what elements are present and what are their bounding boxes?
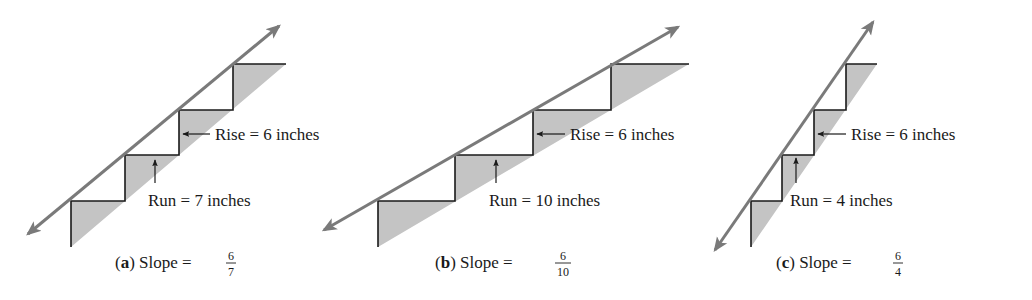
fraction-numerator: 6 [895, 249, 901, 263]
slope-line-arrow [715, 22, 873, 250]
caption-close-paren: ) [450, 253, 460, 272]
caption-prefix: Slope = [139, 253, 192, 272]
run-label: Run = 4 inches [790, 191, 893, 210]
rise-label: Rise = 6 inches [215, 125, 320, 144]
slope-fraction: 6 4 [893, 249, 903, 279]
caption-letter: b [441, 253, 450, 272]
fraction-numerator: 6 [228, 249, 234, 263]
caption-prefix: Slope = [460, 253, 513, 272]
panel-b: Rise = 6 inches Run = 10 inches (b) Slop… [324, 27, 689, 279]
fraction-numerator: 6 [560, 249, 566, 263]
caption: (a) Slope = [115, 253, 192, 272]
run-label: Run = 10 inches [489, 191, 600, 210]
panel-a: Rise = 6 inches Run = 7 inches (a) Slope… [28, 26, 320, 279]
fraction-denominator: 10 [557, 265, 569, 279]
caption: (c) Slope = [776, 253, 852, 272]
slope-fraction: 6 10 [555, 249, 571, 279]
stair-slope-figure: Rise = 6 inches Run = 7 inches (a) Slope… [0, 0, 1032, 300]
slope-fraction: 6 7 [226, 249, 236, 279]
caption-close-paren: ) [789, 253, 799, 272]
caption: (b) Slope = [435, 253, 513, 272]
fraction-denominator: 7 [228, 265, 234, 279]
fraction-denominator: 4 [895, 265, 901, 279]
caption-close-paren: ) [129, 253, 139, 272]
caption-prefix: Slope = [799, 253, 852, 272]
run-label: Run = 7 inches [148, 191, 251, 210]
panel-c: Rise = 6 inches Run = 4 inches (c) Slope… [715, 22, 956, 279]
rise-label: Rise = 6 inches [570, 125, 675, 144]
rise-label: Rise = 6 inches [851, 125, 956, 144]
